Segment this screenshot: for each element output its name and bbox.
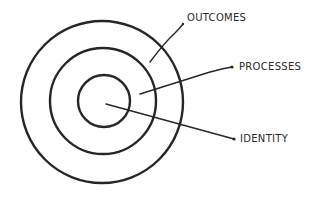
diagram-canvas — [0, 0, 316, 201]
identity-pointer-dot — [232, 137, 235, 140]
label-identity: IDENTITY — [240, 134, 288, 144]
middle-circle-processes — [50, 48, 156, 154]
processes-pointer-dot — [230, 65, 233, 68]
outcomes-pointer-line — [150, 24, 183, 62]
label-outcomes: OUTCOMES — [187, 13, 246, 23]
outer-circle-outcomes — [21, 21, 183, 183]
inner-circle-identity — [78, 75, 130, 127]
label-processes: PROCESSES — [239, 62, 301, 72]
processes-pointer-line — [140, 67, 232, 94]
identity-pointer-line — [106, 104, 234, 139]
outcomes-pointer-dot — [182, 23, 184, 25]
